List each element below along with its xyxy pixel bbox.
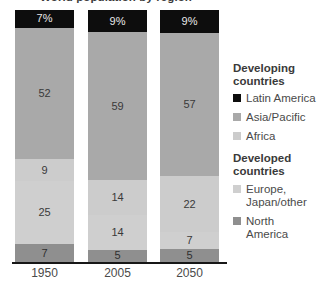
bar-segment-north-america[interactable]: 7: [15, 244, 74, 262]
legend-swatch-icon: [233, 217, 241, 225]
legend-group-developing: Developing countries Latin America Asia/…: [233, 62, 332, 143]
segment-value-label: 9: [41, 165, 47, 176]
segment-value-label: 57: [183, 99, 195, 110]
legend-swatch-icon: [233, 113, 241, 121]
segment-value-label: 52: [38, 88, 50, 99]
bar-segment-europe-japan-other[interactable]: 7: [160, 232, 219, 250]
bar-segment-asia-pacific[interactable]: 57: [160, 33, 219, 177]
legend-label: Europe, Japan/other: [246, 183, 307, 210]
legend-heading-line-1: Developing: [233, 62, 295, 74]
bar-segment-latin-america[interactable]: 7%: [15, 10, 74, 28]
segment-value-label: 5: [114, 250, 120, 261]
bar-segment-latin-america[interactable]: 9%: [88, 10, 147, 32]
segment-value-label: 7: [186, 235, 192, 246]
legend-swatch-icon: [233, 94, 241, 102]
segment-value-label: 7%: [37, 13, 53, 24]
segment-value-label: 25: [38, 207, 50, 218]
stacked-bar-2005[interactable]: 9% 59 14 14 5: [88, 10, 147, 262]
x-axis-tick-1950: 1950: [15, 266, 74, 280]
legend-swatch-icon: [233, 132, 241, 140]
bar-segment-north-america[interactable]: 5: [160, 249, 219, 262]
segment-value-label: 59: [111, 101, 123, 112]
chart-legend: Developing countries Latin America Asia/…: [233, 62, 332, 251]
segment-value-label: 9%: [182, 16, 198, 27]
bar-segment-africa[interactable]: 9: [15, 159, 74, 182]
segment-value-label: 14: [111, 192, 123, 203]
segment-value-label: 14: [111, 227, 123, 238]
segment-value-label: 5: [186, 250, 192, 261]
x-axis-tick-2005: 2005: [88, 266, 147, 280]
legend-heading-line-2: countries: [233, 165, 285, 177]
legend-heading-developing: Developing countries: [233, 62, 332, 88]
bar-segment-latin-america[interactable]: 9%: [160, 10, 219, 33]
legend-item-asia-pacific[interactable]: Asia/Pacific: [233, 111, 332, 125]
stacked-bar-1950[interactable]: 7% 52 9 25 7: [15, 10, 74, 262]
chart-plot-area: 7% 52 9 25 7 9% 59 14 14 5 9% 57 22 7 5 …: [0, 0, 232, 295]
legend-heading-developed: Developed countries: [233, 152, 332, 178]
bar-segment-europe-japan-other[interactable]: 25: [15, 181, 74, 244]
bar-segment-africa[interactable]: 22: [160, 176, 219, 231]
legend-group-developed: Developed countries Europe, Japan/other …: [233, 152, 332, 242]
bar-segment-north-america[interactable]: 5: [88, 250, 147, 262]
x-axis-tick-2050: 2050: [160, 266, 219, 280]
legend-label: Latin America: [246, 92, 316, 106]
bar-segment-asia-pacific[interactable]: 52: [15, 28, 74, 159]
legend-heading-line-1: Developed: [233, 152, 291, 164]
legend-heading-line-2: countries: [233, 75, 285, 87]
legend-label: North America: [246, 215, 288, 242]
legend-label: Africa: [246, 130, 275, 144]
x-axis-line: [12, 262, 227, 264]
segment-value-label: 9%: [110, 16, 126, 27]
bar-segment-asia-pacific[interactable]: 59: [88, 32, 147, 179]
segment-value-label: 22: [183, 199, 195, 210]
stacked-bar-2050[interactable]: 9% 57 22 7 5: [160, 10, 219, 262]
legend-item-north-america[interactable]: North America: [233, 215, 332, 242]
legend-item-europe-japan-other[interactable]: Europe, Japan/other: [233, 183, 332, 210]
bar-segment-europe-japan-other[interactable]: 14: [88, 215, 147, 250]
segment-value-label: 7: [41, 248, 47, 259]
legend-swatch-icon: [233, 185, 241, 193]
legend-item-africa[interactable]: Africa: [233, 130, 332, 144]
legend-item-latin-america[interactable]: Latin America: [233, 92, 332, 106]
bar-segment-africa[interactable]: 14: [88, 180, 147, 215]
legend-label: Asia/Pacific: [246, 111, 305, 125]
